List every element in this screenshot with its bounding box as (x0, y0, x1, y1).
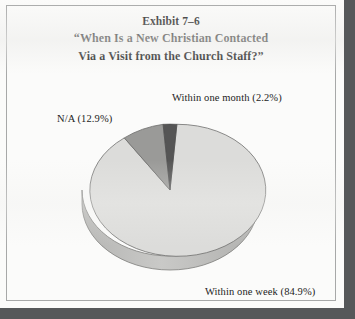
pie-label-within-one-week: Within one week (84.9%) (205, 286, 315, 297)
pie-chart: Within one month (2.2%) N/A (12.9%) With… (0, 0, 355, 319)
exhibit-page: Exhibit 7–6 “When Is a New Christian Con… (0, 0, 355, 319)
pie-chart-svg (0, 0, 355, 319)
pie-label-within-one-month: Within one month (2.2%) (172, 92, 282, 103)
pie-label-na: N/A (12.9%) (57, 113, 112, 124)
paper-surface: Exhibit 7–6 “When Is a New Christian Con… (0, 0, 344, 308)
pie-slice-within-one-week (90, 124, 266, 256)
